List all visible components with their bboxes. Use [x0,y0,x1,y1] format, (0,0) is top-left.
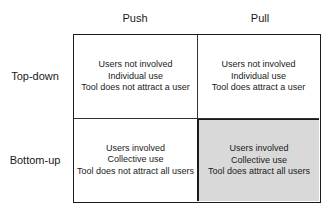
cell-top-down-pull: Users not involved Individual use Tool d… [198,35,319,119]
cell-line: Tool does attract all users [208,166,310,178]
cell-line: Users not involved [98,59,172,71]
cell-line: Collective use [107,154,163,166]
cell-line: Users involved [106,143,165,155]
column-header-pull: Pull [198,12,322,24]
row-header-bottom-up: Bottom-up [0,154,70,166]
matrix-grid: Users not involved Individual use Tool d… [73,34,321,203]
cell-bottom-up-pull-highlighted: Users involved Collective use Tool does … [198,119,319,201]
cell-line: Tool does attract a user [212,82,306,94]
cell-line: Individual use [108,71,163,83]
row-header-top-down: Top-down [0,70,70,82]
cell-line: Collective use [231,155,287,167]
cell-line: Users not involved [221,59,295,71]
cell-line: Individual use [231,71,286,83]
cell-line: Tool does not attract a user [81,82,190,94]
cell-top-down-push: Users not involved Individual use Tool d… [74,35,198,119]
column-header-push: Push [73,12,197,24]
cell-bottom-up-push: Users involved Collective use Tool does … [74,119,198,201]
cell-line: Tool does not attract all users [77,166,194,178]
cell-line: Users involved [229,143,288,155]
